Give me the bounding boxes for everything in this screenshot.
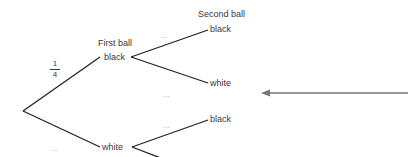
fraction-numerator: 1 xyxy=(50,60,60,68)
node-second-white-after-black: white xyxy=(210,78,231,88)
node-second-black-after-black: black xyxy=(210,24,231,34)
branch-black-to-white xyxy=(131,57,208,83)
arrow-left-icon xyxy=(261,90,270,97)
root-probability-fraction: 1 4 xyxy=(50,60,60,79)
node-first-white: white xyxy=(102,142,123,152)
header-second-ball: Second ball xyxy=(198,9,245,19)
fraction-denominator: 4 xyxy=(50,71,60,79)
branch-white-to-white xyxy=(132,147,166,157)
node-first-black: black xyxy=(104,52,125,62)
probability-placeholder-root-white: ... xyxy=(51,145,58,153)
probability-placeholder-black-white: ... xyxy=(163,91,170,99)
branch-black-to-black xyxy=(131,30,208,57)
node-second-black-after-white: black xyxy=(210,114,231,124)
branch-root-to-white xyxy=(23,111,100,147)
header-first-ball: First ball xyxy=(98,38,132,48)
probability-placeholder-black-black: ... xyxy=(161,32,168,40)
branch-white-to-black xyxy=(132,120,208,147)
tree-lines xyxy=(0,0,410,157)
probability-tree-diagram: First ball Second ball 1 4 ... black whi… xyxy=(0,0,410,157)
probability-placeholder-white-black: ... xyxy=(163,122,170,130)
branch-root-to-black xyxy=(23,57,100,111)
